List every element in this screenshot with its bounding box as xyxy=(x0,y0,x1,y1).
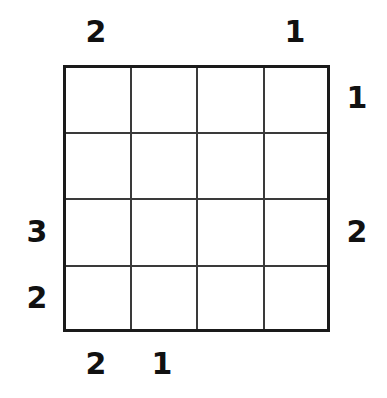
grid-cell[interactable] xyxy=(265,267,327,329)
grid-cell[interactable] xyxy=(66,134,130,198)
puzzle-diagram: 2 1 3 2 1 2 2 1 xyxy=(0,0,387,398)
clue-left-row3: 3 xyxy=(17,215,57,249)
clue-left-row2 xyxy=(17,148,57,182)
clue-top-col2 xyxy=(142,15,182,49)
grid-cell[interactable] xyxy=(199,201,263,265)
clue-top-col1: 2 xyxy=(76,15,116,49)
grid-cell[interactable] xyxy=(66,68,130,132)
grid-line-horizontal-2 xyxy=(66,198,327,200)
grid-cell[interactable] xyxy=(132,68,196,132)
clue-bottom-col1: 2 xyxy=(76,347,116,381)
grid-cell[interactable] xyxy=(132,201,196,265)
clue-right-row2 xyxy=(337,148,377,182)
grid-cell[interactable] xyxy=(265,201,327,265)
clue-left-row4: 2 xyxy=(17,281,57,315)
clue-right-row4 xyxy=(337,281,377,315)
grid-cell[interactable] xyxy=(199,267,263,329)
grid-cell[interactable] xyxy=(199,68,263,132)
grid-cell[interactable] xyxy=(199,134,263,198)
clue-top-col3 xyxy=(209,15,249,49)
clue-right-row1: 1 xyxy=(337,81,377,115)
grid-cell[interactable] xyxy=(132,267,196,329)
grid-cell[interactable] xyxy=(132,134,196,198)
clue-left-row1 xyxy=(17,81,57,115)
clue-bottom-col3 xyxy=(209,347,249,381)
clue-bottom-col2: 1 xyxy=(142,347,182,381)
grid-cell[interactable] xyxy=(66,201,130,265)
grid-cell[interactable] xyxy=(265,134,327,198)
grid-cell[interactable] xyxy=(265,68,327,132)
clue-bottom-col4 xyxy=(275,347,315,381)
puzzle-grid[interactable] xyxy=(63,65,330,332)
grid-cell[interactable] xyxy=(66,267,130,329)
clue-top-col4: 1 xyxy=(275,15,315,49)
clue-right-row3: 2 xyxy=(337,215,377,249)
